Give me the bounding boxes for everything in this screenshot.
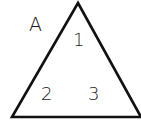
region-label-2: 2: [41, 83, 52, 104]
triangle-diagram: A 1 2 3: [0, 0, 141, 121]
region-label-1: 1: [73, 29, 84, 50]
region-label-3: 3: [88, 83, 99, 104]
vertex-label-a: A: [29, 13, 42, 35]
